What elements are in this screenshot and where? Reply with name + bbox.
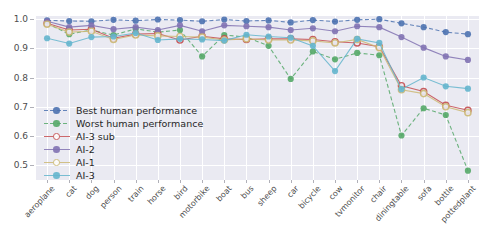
legend-dot-swatch	[53, 120, 60, 127]
legend-label: AI-1	[76, 157, 95, 168]
data-point	[398, 132, 404, 138]
data-point	[243, 23, 249, 29]
x-axis-tick-mark	[379, 180, 380, 183]
x-axis-tick-label-aeroplane: aeroplane	[23, 184, 57, 219]
data-point	[421, 91, 427, 97]
y-axis-tick-mark	[30, 107, 34, 108]
data-point	[354, 36, 360, 42]
legend-label: AI-3 sub	[76, 131, 115, 142]
legend-dot-swatch	[53, 146, 60, 153]
data-point	[199, 18, 205, 24]
data-point	[354, 23, 360, 29]
data-point	[421, 24, 427, 30]
data-point	[376, 40, 382, 46]
data-point	[376, 52, 382, 58]
data-point	[421, 45, 427, 51]
legend-dot-swatch	[53, 172, 60, 179]
data-point	[288, 19, 294, 25]
x-axis-tick-mark	[335, 180, 336, 183]
x-axis-tick-label-bird: bird	[172, 184, 189, 201]
data-point	[44, 21, 50, 27]
data-point	[443, 29, 449, 35]
x-axis-tick-label-cow: cow	[327, 184, 344, 202]
y-axis-tick-label: 0.6	[0, 131, 28, 141]
data-point	[66, 18, 72, 24]
data-point	[465, 86, 471, 92]
x-axis-tick-label-dog: dog	[84, 184, 101, 201]
x-axis-tick-label-car: car	[285, 184, 300, 199]
data-point	[288, 35, 294, 41]
legend-dot-swatch	[53, 133, 60, 140]
legend-marker-icon	[44, 156, 70, 169]
series-ai-2	[44, 18, 471, 63]
data-point	[155, 37, 161, 43]
x-axis-tick-label-cat: cat	[64, 184, 79, 199]
data-point	[465, 31, 471, 37]
legend-item-ai-1[interactable]: AI-1	[44, 156, 203, 169]
x-axis-tick-label-horse: horse	[146, 184, 168, 206]
y-axis-tick-mark	[30, 48, 34, 49]
data-point	[376, 16, 382, 22]
y-axis-tick-label: 0.9	[0, 43, 28, 53]
data-point	[221, 38, 227, 44]
data-point	[465, 110, 471, 116]
data-point	[354, 50, 360, 56]
legend-dot-swatch	[53, 107, 60, 114]
data-point	[221, 22, 227, 28]
data-point	[110, 17, 116, 23]
legend-label: AI-3	[76, 170, 95, 181]
y-axis-tick-mark	[30, 136, 34, 137]
data-point	[443, 104, 449, 110]
x-axis-tick-mark	[269, 180, 270, 183]
data-point	[265, 17, 271, 23]
data-point	[88, 28, 94, 34]
data-point	[288, 76, 294, 82]
legend-item-ai-3-sub[interactable]: AI-3 sub	[44, 130, 203, 143]
data-point	[332, 68, 338, 74]
data-point	[443, 83, 449, 89]
chart-container: 0.50.60.70.80.91.0 aeroplanecatdogperson…	[0, 0, 486, 244]
legend-marker-icon	[44, 130, 70, 143]
data-point	[376, 24, 382, 30]
y-axis-tick-mark	[30, 78, 34, 79]
data-point	[465, 57, 471, 63]
data-point	[443, 112, 449, 118]
x-axis-tick-mark	[313, 180, 314, 183]
data-point	[332, 40, 338, 46]
legend-marker-icon	[44, 169, 70, 182]
legend-item-ai-2[interactable]: AI-2	[44, 143, 203, 156]
data-point	[421, 74, 427, 80]
data-point	[110, 26, 116, 32]
data-point	[398, 86, 404, 92]
data-point	[332, 28, 338, 34]
data-point	[133, 18, 139, 24]
legend-item-best-human-performance[interactable]: Best human performance	[44, 104, 203, 117]
data-point	[133, 24, 139, 30]
data-point	[310, 25, 316, 31]
data-point	[310, 43, 316, 49]
legend-label: Best human performance	[76, 105, 197, 116]
x-axis-tick-label-sofa: sofa	[415, 184, 433, 202]
x-axis-tick-mark	[224, 180, 225, 183]
x-axis-tick-label-train: train	[126, 184, 145, 204]
data-point	[354, 17, 360, 23]
legend-item-worst-human-performance[interactable]: Worst human performance	[44, 117, 203, 130]
data-point	[177, 22, 183, 28]
legend-marker-icon	[44, 104, 70, 117]
y-axis-tick-label: 1.0	[0, 14, 28, 24]
data-point	[199, 53, 205, 59]
data-point	[443, 53, 449, 59]
data-point	[88, 34, 94, 40]
data-point	[332, 18, 338, 24]
x-axis-tick-mark	[446, 180, 447, 183]
data-point	[398, 34, 404, 40]
series-ai-3-sub	[44, 20, 471, 113]
y-axis-tick-label: 0.7	[0, 102, 28, 112]
legend-dot-swatch	[53, 159, 60, 166]
data-point	[265, 24, 271, 30]
x-axis-tick-label-bicycle: bicycle	[297, 184, 323, 211]
data-point	[110, 33, 116, 39]
legend-item-ai-3[interactable]: AI-3	[44, 169, 203, 182]
legend-label: Worst human performance	[76, 118, 203, 129]
data-point	[133, 30, 139, 36]
